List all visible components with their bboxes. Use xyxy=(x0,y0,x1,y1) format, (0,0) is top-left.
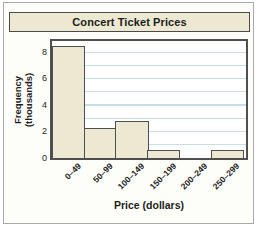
y-tick-label: 6 xyxy=(4,73,48,84)
x-axis-label: Price (dollars) xyxy=(50,199,248,211)
bar-0–49 xyxy=(52,46,85,158)
bar-250–299 xyxy=(211,150,244,158)
bar-50–99 xyxy=(84,128,117,158)
x-tick-label: 0–49 xyxy=(62,161,82,181)
bar-150–199 xyxy=(147,150,180,158)
x-tick-label: 150–199 xyxy=(147,161,177,191)
y-tick-label: 0 xyxy=(4,153,48,164)
figure-frame: Concert Ticket Prices Frequency (thousan… xyxy=(3,2,254,224)
x-tick-label: 50–99 xyxy=(91,161,115,185)
y-tick-label: 4 xyxy=(4,100,48,111)
plot-area xyxy=(50,39,248,160)
x-tick-label: 250–299 xyxy=(211,161,241,191)
chart-title: Concert Ticket Prices xyxy=(72,16,186,28)
y-tick-label: 8 xyxy=(4,47,48,58)
x-tick-label: 200–249 xyxy=(179,161,209,191)
x-tick-label: 100–149 xyxy=(116,161,146,191)
bar-100–149 xyxy=(115,121,148,158)
chart-title-bar: Concert Ticket Prices xyxy=(9,12,250,32)
y-tick-label: 2 xyxy=(4,126,48,137)
